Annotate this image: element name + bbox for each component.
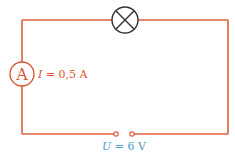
current-var: I: [37, 68, 43, 81]
lamp-icon: [112, 7, 138, 33]
current-value: = 0,5 A: [46, 68, 89, 81]
circuit-diagram: A I = 0,5 A U = 6 V: [0, 0, 235, 154]
terminal-right: [130, 132, 134, 136]
current-label: I = 0,5 A: [37, 68, 89, 81]
voltage-label: U = 6 V: [102, 140, 147, 153]
ammeter: A: [10, 62, 34, 86]
terminal-left: [114, 132, 118, 136]
voltage-var: U: [102, 140, 112, 153]
ammeter-letter: A: [15, 65, 28, 84]
voltage-value: = 6 V: [115, 140, 147, 153]
voltage-source-terminals: [114, 132, 134, 136]
